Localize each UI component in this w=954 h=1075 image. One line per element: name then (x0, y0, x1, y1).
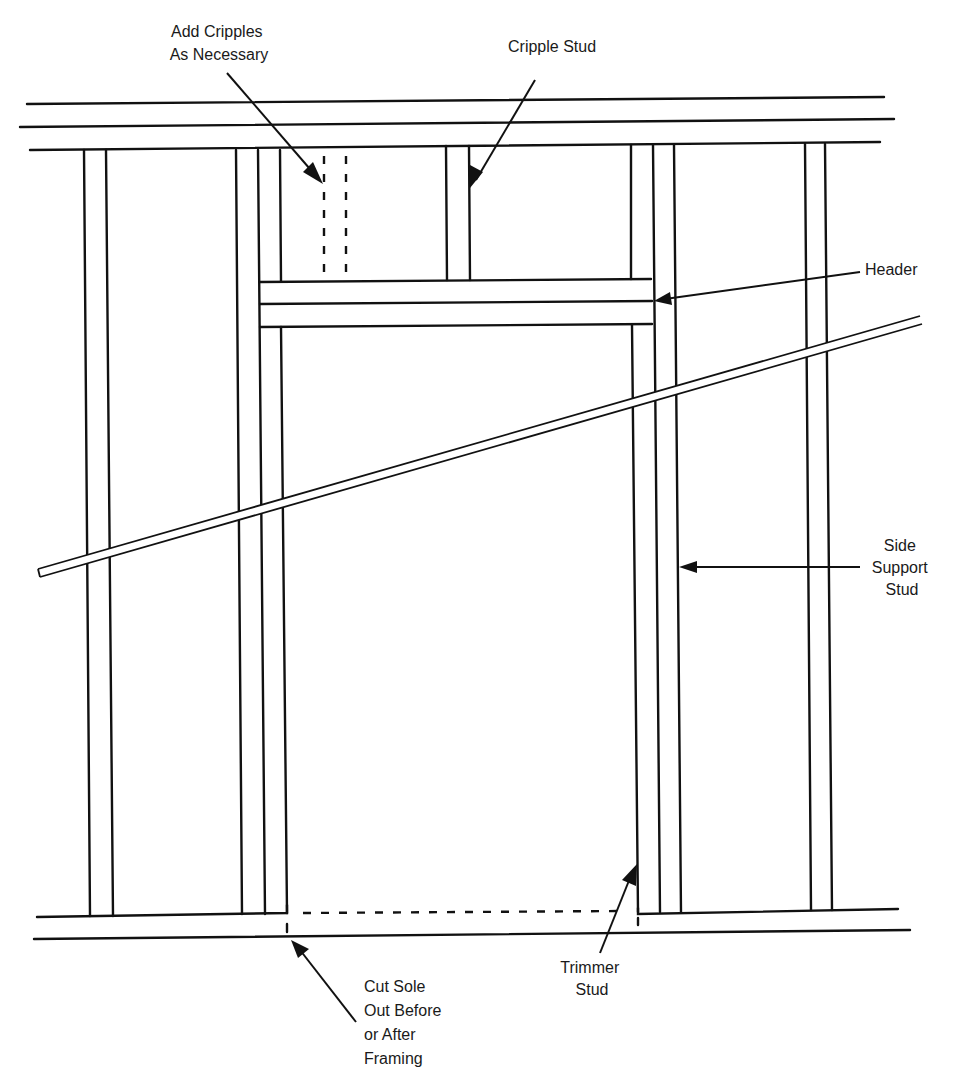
leader-side-support-stud (679, 561, 860, 573)
arrowhead-icon (622, 864, 637, 886)
label-cut-sole: Cut Sole Out Before or After Framing (364, 978, 446, 1067)
leader-header (654, 272, 860, 305)
common-stud-right (805, 144, 832, 910)
arrowhead-icon (679, 561, 697, 573)
label-cripple-stud: Cripple Stud (508, 38, 596, 55)
diagonal-brace (38, 316, 922, 577)
leader-trimmer-stud (600, 864, 637, 953)
cripple-stud (446, 146, 470, 280)
side-support-stud-left (236, 150, 265, 914)
label-trimmer-stud: Trimmer Stud (560, 959, 623, 998)
wall-framing-diagram: Add Cripples As Necessary Cripple Stud H… (0, 0, 954, 1075)
side-support-stud-right (653, 145, 681, 912)
common-stud-left (84, 150, 113, 916)
leader-add-cripples (227, 73, 323, 184)
trimmer-stud-right (631, 145, 638, 912)
arrowhead-icon (291, 940, 309, 958)
door-opening-cut-line (303, 911, 625, 913)
arrowhead-icon (470, 165, 483, 188)
arrowhead-icon (654, 292, 672, 305)
label-side-support-stud: Side Support Stud (872, 537, 933, 598)
trimmer-stud-left (280, 150, 287, 913)
label-header: Header (865, 261, 918, 278)
leader-cut-sole (291, 940, 356, 1022)
leader-cripple-stud (470, 80, 535, 188)
sole-plate (34, 905, 910, 939)
top-plate (20, 97, 894, 150)
optional-cripple-studs (324, 156, 346, 280)
header (260, 279, 652, 327)
label-add-cripples: Add Cripples As Necessary (170, 23, 269, 63)
